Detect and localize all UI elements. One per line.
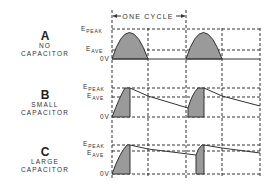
svg-text:EPEAK: EPEAK	[83, 83, 105, 92]
panel-a-axis-labels: EPEAK EAVE 0V	[81, 25, 110, 62]
svg-text:0V: 0V	[100, 170, 110, 177]
panel-c-axis-labels: EPEAK EAVE 0V	[83, 140, 110, 177]
panel-c-waveform	[112, 145, 260, 174]
svg-text:EPEAK: EPEAK	[83, 140, 105, 149]
panel-b-axis-labels: EPEAK EAVE 0V	[83, 83, 110, 120]
one-cycle-label: ONE CYCLE	[122, 13, 173, 20]
svg-text:EAVE: EAVE	[87, 92, 104, 101]
svg-text:0V: 0V	[100, 113, 110, 120]
svg-text:EAVE: EAVE	[86, 45, 103, 54]
svg-text:EPEAK: EPEAK	[81, 25, 103, 34]
waveform-diagram: ONE CYCLE EPEAK EAVE 0V EPEAK EAVE 0V EP…	[0, 0, 277, 188]
svg-text:0V: 0V	[100, 55, 110, 62]
svg-text:EAVE: EAVE	[87, 149, 104, 158]
one-cycle-marker: ONE CYCLE	[113, 13, 185, 20]
